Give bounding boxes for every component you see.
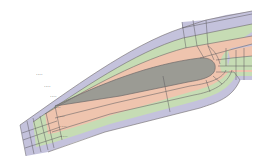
marker-5: ···· [58, 113, 65, 119]
marker-7: ···· [61, 133, 68, 139]
mesh-diagram: ···· ···· ···· ···· ···· ···· ···· [0, 0, 269, 159]
marker-6: ···· [60, 123, 67, 129]
marker-1: ···· [36, 71, 43, 77]
marker-3: ···· [50, 93, 57, 99]
marker-2: ···· [44, 83, 51, 89]
marker-4: ···· [54, 104, 61, 110]
